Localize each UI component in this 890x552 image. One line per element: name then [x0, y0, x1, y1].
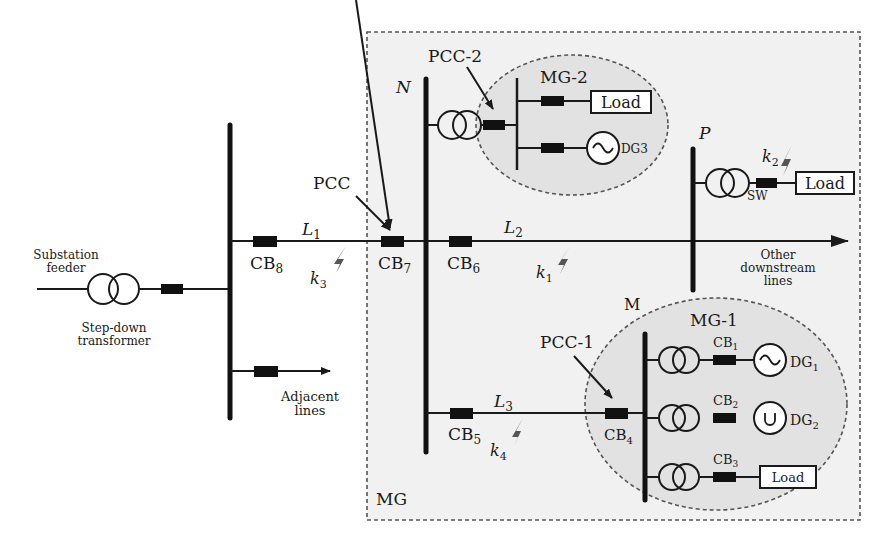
feeder-label: feeder	[46, 261, 85, 275]
breaker-icon	[254, 366, 278, 377]
pcc-label: PCC	[313, 173, 350, 193]
pcc2-breaker-icon	[483, 120, 505, 130]
sw-label: SW	[747, 189, 768, 203]
cb7-icon	[381, 236, 404, 247]
dg3-label: DG3	[621, 142, 648, 156]
bus-n-label: N	[395, 77, 412, 97]
downstream-label: Other	[760, 248, 795, 262]
mg2-label: MG-2	[540, 67, 588, 87]
adjacent-lines-label: lines	[294, 403, 325, 418]
cb2-icon	[713, 413, 736, 423]
mg1-load-label: Load	[772, 470, 805, 485]
breaker-icon	[541, 143, 564, 153]
cb1-icon	[713, 355, 736, 365]
cb6-icon	[449, 236, 472, 247]
breaker-icon	[161, 284, 183, 294]
cb4-icon	[605, 408, 628, 419]
dg2-generator-icon	[754, 402, 786, 434]
power-system-diagram: MG MG-2 MG-1 Substation feeder Step-down…	[0, 0, 890, 552]
fault-bolt-icon	[334, 246, 346, 273]
cb8-icon	[253, 236, 277, 247]
cb5-icon	[450, 408, 473, 419]
p-load-label: Load	[805, 174, 845, 193]
mg1-label: MG-1	[690, 310, 738, 330]
substation-label: Substation	[33, 248, 99, 262]
bus-p-label: P	[698, 123, 711, 143]
downstream-label-2: downstream	[740, 261, 816, 275]
cb8-label: CB8	[250, 253, 283, 276]
pcc1-label: PCC-1	[540, 332, 594, 352]
sw-icon	[756, 178, 777, 188]
transformer-label: transformer	[77, 334, 150, 348]
breaker-icon	[541, 96, 564, 106]
stepdown-label: Step-down	[82, 321, 147, 335]
downstream-label-3: lines	[764, 274, 793, 288]
bus-m-label: M	[624, 295, 640, 314]
pcc2-label: PCC-2	[428, 46, 482, 66]
substation-feeder	[37, 274, 230, 304]
cb3-icon	[713, 472, 736, 482]
mg2-load-label: Load	[601, 93, 641, 112]
k3-label: k3	[310, 269, 327, 291]
mg-label: MG	[376, 489, 407, 509]
l1-label: L1	[301, 219, 321, 242]
adjacent-label: Adjacent	[280, 389, 340, 404]
